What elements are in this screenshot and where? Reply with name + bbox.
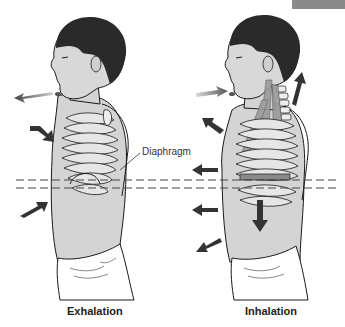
chest-outward-arrow-upper — [202, 118, 224, 134]
exhalation-figure — [51, 17, 134, 300]
neck-upward-arrow — [292, 72, 306, 106]
inhalation-caption: Inhalation — [245, 305, 297, 317]
diaphragm-label: Diaphragm — [142, 146, 191, 157]
air-in-arrow — [196, 86, 228, 97]
chest-outward-arrow-mid — [192, 164, 218, 176]
exhalation-arrows — [14, 92, 54, 218]
breathing-diagram — [0, 0, 345, 327]
exhalation-caption: Exhalation — [67, 305, 123, 317]
chest-inward-arrow-lower — [20, 202, 48, 218]
diaphragm-flattened — [240, 174, 290, 180]
inhalation-figure — [222, 15, 309, 300]
chest-outward-arrow-bottom — [196, 238, 222, 252]
chest-inward-arrow-upper — [30, 126, 54, 142]
air-out-arrow — [14, 92, 53, 103]
chest-outward-arrow-low — [192, 204, 218, 216]
